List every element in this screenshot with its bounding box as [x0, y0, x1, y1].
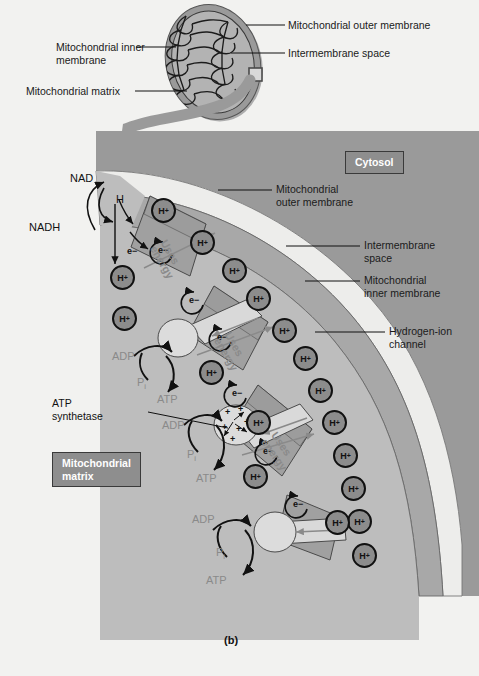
cycle-top-adp: ADP: [112, 350, 135, 363]
proton-ion: H+: [272, 318, 297, 343]
label-electron-free: e−: [127, 246, 137, 256]
cycle-top-phosphate: Pi: [137, 376, 146, 392]
main-label-hydrogen-ion-channel-line2: channel: [389, 338, 452, 351]
cycle-bottom-adp: ADP: [192, 513, 215, 526]
label-hydrogen: H: [116, 193, 124, 206]
proton-ion-matrix: H+: [243, 464, 268, 489]
inset-label-inner-membrane-line2: membrane: [56, 54, 145, 67]
svg-text:+: +: [230, 434, 235, 444]
main-label-outer-membrane-line1: Mitochondrial: [276, 183, 353, 196]
region-box-mitochondrial-matrix: Mitochondrial matrix: [52, 452, 141, 487]
main-label-intermembrane-space: Intermembrane space: [364, 239, 435, 265]
cycle-top-atp: ATP: [157, 393, 178, 406]
cycle-top-phosphate-sub: i: [144, 382, 146, 391]
region-box-cytosol: Cytosol: [345, 151, 404, 174]
proton-ion: H+: [222, 258, 247, 283]
electron-in-complex-4: e−: [293, 499, 303, 509]
main-label-inner-membrane-line1: Mitochondrial: [364, 274, 440, 287]
figure-canvas: ++ ++ ++: [0, 0, 479, 676]
proton-ion-channel: H+: [325, 510, 350, 535]
proton-ion-channel: H+: [246, 410, 271, 435]
figure-caption: (b): [224, 634, 238, 646]
main-label-hydrogen-ion-channel: Hydrogen-ion channel: [389, 325, 452, 351]
main-label-outer-membrane: Mitochondrial outer membrane: [276, 183, 353, 209]
proton-ion: H+: [293, 346, 318, 371]
cycle-bottom-phosphate: Pi: [216, 546, 225, 562]
inset-label-inner-membrane: Mitochondrial inner membrane: [56, 41, 145, 67]
proton-ion: H+: [151, 198, 176, 223]
cycle-middle-phosphate: Pi: [187, 448, 196, 464]
cycle-middle-atp: ATP: [196, 472, 217, 485]
proton-ion: H+: [308, 378, 333, 403]
proton-ion: H+: [352, 543, 377, 568]
proton-ion: H+: [246, 286, 271, 311]
label-atp-synthetase-line1: ATP: [52, 397, 103, 410]
label-nadh: NADH: [29, 221, 60, 234]
main-label-inner-membrane-line2: inner membrane: [364, 287, 440, 300]
main-label-hydrogen-ion-channel-line1: Hydrogen-ion: [389, 325, 452, 338]
cycle-bottom-atp: ATP: [206, 574, 227, 587]
matrix-box-line2: matrix: [62, 470, 131, 483]
cycle-middle-adp: ADP: [162, 419, 185, 432]
proton-ion: H+: [341, 476, 366, 501]
proton-ion: H+: [190, 230, 215, 255]
electron-in-complex-2b: e−: [232, 388, 242, 398]
label-atp-synthetase: ATP synthetase: [52, 397, 103, 422]
proton-ion: H+: [322, 410, 347, 435]
inset-label-matrix: Mitochondrial matrix: [26, 85, 120, 98]
proton-ion-matrix: H+: [110, 265, 135, 290]
matrix-box-line1: Mitochondrial: [62, 457, 131, 470]
main-label-inner-membrane: Mitochondrial inner membrane: [364, 274, 440, 300]
inset-label-outer-membrane: Mitochondrial outer membrane: [288, 19, 430, 32]
cycle-middle-phosphate-sub: i: [194, 454, 196, 463]
label-atp-synthetase-line2: synthetase: [52, 410, 103, 423]
proton-ion-matrix: H+: [112, 306, 137, 331]
proton-ion: H+: [347, 509, 372, 534]
label-nad: NAD: [70, 172, 93, 185]
electron-in-complex-1b: e−: [189, 295, 199, 305]
main-label-intermembrane-space-line1: Intermembrane: [364, 239, 435, 252]
inset-label-inner-membrane-line1: Mitochondrial inner: [56, 41, 145, 54]
cycle-bottom-phosphate-sub: i: [223, 552, 225, 561]
inset-label-intermembrane-space: Intermembrane space: [288, 47, 390, 60]
proton-ion: H+: [333, 443, 358, 468]
main-label-intermembrane-space-line2: space: [364, 252, 435, 265]
proton-ion-matrix: H+: [199, 360, 224, 385]
main-label-outer-membrane-line2: outer membrane: [276, 196, 353, 209]
svg-text:+: +: [225, 407, 230, 417]
